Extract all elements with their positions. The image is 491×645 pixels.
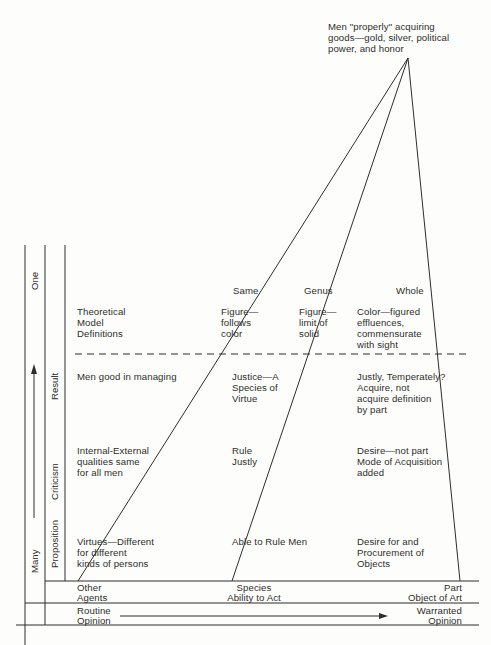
- column-header-same: Same: [233, 285, 258, 296]
- diagram-canvas: Men "properly" acquiring goods—gold, sil…: [0, 0, 491, 645]
- cell-criticism-col2: Rule Justly: [232, 445, 257, 467]
- opinion-label-routine: Routine Opinion: [77, 606, 111, 625]
- cell-one-col2: Figure— follows color: [221, 306, 259, 339]
- cell-criticism-col4: Desire—not part Mode of Acquisition adde…: [357, 445, 442, 478]
- base-label-species: Species Ability to Act: [204, 583, 304, 602]
- side-label-result: Result: [49, 373, 60, 400]
- cell-result-col4: Justly, Temperately? Acquire, not acquir…: [357, 371, 446, 415]
- opinion-label-warranted: Warranted Opinion: [372, 606, 462, 625]
- cell-one-col1: Theoretical Model Definitions: [77, 306, 126, 339]
- side-label-many: Many: [29, 550, 40, 573]
- cell-one-col3: Figure— limit of solid: [299, 306, 337, 339]
- cell-one-col4: Color—figured effluences, commensurate w…: [357, 306, 422, 350]
- upward-arrow-head: [31, 364, 37, 374]
- cell-proposition-col2: Able to Rule Men: [232, 536, 307, 547]
- side-label-criticism: Criticism: [49, 463, 60, 500]
- cell-proposition-col1: Virtues—Different for different kinds of…: [77, 536, 154, 569]
- base-label-other-agents: Other Agents: [77, 583, 107, 602]
- cell-criticism-col1: Internal-External qualities same for all…: [77, 445, 149, 478]
- apex-label: Men "properly" acquiring goods—gold, sil…: [328, 21, 449, 54]
- cell-result-col2: Justice—A Species of Virtue: [232, 371, 279, 404]
- side-label-proposition: Proposition: [49, 520, 60, 568]
- cell-result-col1: Men good in managing: [77, 371, 177, 382]
- column-header-whole: Whole: [396, 285, 424, 296]
- column-header-genus: Genus: [304, 285, 333, 296]
- side-label-one: One: [29, 272, 40, 290]
- base-label-part: Part Object of Art: [372, 583, 462, 602]
- cell-proposition-col4: Desire for and Procurement of Objects: [357, 536, 424, 569]
